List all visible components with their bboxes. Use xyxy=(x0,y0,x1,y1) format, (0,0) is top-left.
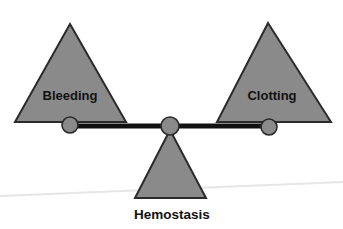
hemostasis-fulcrum-triangle xyxy=(135,130,206,198)
balance-scale-illustration: Bleeding Clotting Hemostasis xyxy=(0,0,343,229)
center-pivot-circle xyxy=(161,117,179,135)
hemostasis-caption: Hemostasis xyxy=(134,207,210,222)
clotting-triangle xyxy=(217,23,331,122)
bleeding-label: Bleeding xyxy=(43,88,98,103)
bleeding-triangle xyxy=(15,24,126,122)
right-pivot-circle xyxy=(261,119,277,135)
hemostasis-balance-diagram: Bleeding Clotting Hemostasis xyxy=(0,0,343,229)
left-pivot-circle xyxy=(62,117,78,133)
clotting-label: Clotting xyxy=(247,88,296,103)
